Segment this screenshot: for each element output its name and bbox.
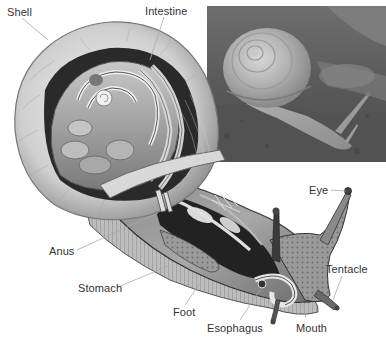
- label-foot: Foot: [173, 306, 195, 318]
- label-shell: Shell: [7, 6, 32, 18]
- snail-anatomy-diagram: Shell Intestine Eye Anus Tentacle Stomac…: [0, 0, 386, 342]
- stomach-leader: [118, 266, 168, 287]
- label-anus: Anus: [49, 245, 74, 257]
- label-stomach: Stomach: [78, 282, 122, 294]
- tentacle-leader: [333, 276, 342, 300]
- snail-cutaway-illustration: [0, 0, 386, 342]
- label-tentacle: Tentacle: [326, 263, 368, 275]
- label-eye: Eye: [309, 184, 328, 196]
- label-esophagus: Esophagus: [207, 322, 263, 334]
- label-intestine: Intestine: [145, 5, 187, 17]
- eye-leader: [331, 190, 346, 191]
- label-mouth: Mouth: [296, 322, 327, 334]
- shell-leader: [22, 18, 48, 40]
